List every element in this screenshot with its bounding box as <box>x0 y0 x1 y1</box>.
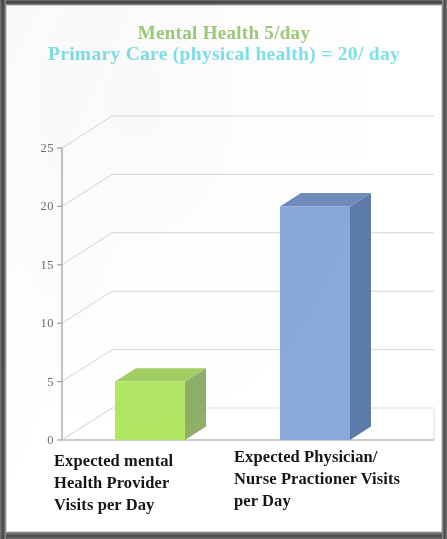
category-label-mental-health-provider: Expected mentalHealth ProviderVisits per… <box>54 450 224 515</box>
bar-side-face <box>350 193 371 440</box>
category-label-line: Visits per Day <box>54 494 224 516</box>
bar-1 <box>280 193 371 440</box>
bar-front-face <box>115 382 185 440</box>
title-line-primary-care: Primary Care (physical health) = 20/ day <box>18 43 430 65</box>
y-axis-tick-label: 10 <box>20 316 54 331</box>
y-axis-tick-label: 25 <box>20 141 54 156</box>
category-label-physician-nurse-practitioner: Expected Physician/Nurse Practioner Visi… <box>234 446 434 511</box>
y-axis-tick-label: 0 <box>20 433 54 448</box>
category-label-line: per Day <box>234 490 434 512</box>
category-label-line: Health Provider <box>54 472 224 494</box>
y-axis-tick-label: 20 <box>20 199 54 214</box>
slide-title: Mental Health 5/day Primary Care (physic… <box>18 22 430 65</box>
bar-front-face <box>280 206 350 440</box>
category-label-line: Expected Physician/ <box>234 446 434 468</box>
y-axis-ticks <box>57 148 62 440</box>
category-label-line: Nurse Practioner Visits <box>234 468 434 490</box>
y-axis-tick-label: 15 <box>20 257 54 272</box>
slide-canvas: 0510152025 Mental Health 5/day Primary C… <box>0 0 447 539</box>
title-line-mental-health: Mental Health 5/day <box>18 22 430 43</box>
category-label-line: Expected mental <box>54 450 224 472</box>
y-axis-tick-label: 5 <box>20 374 54 389</box>
bar-0 <box>115 368 206 440</box>
